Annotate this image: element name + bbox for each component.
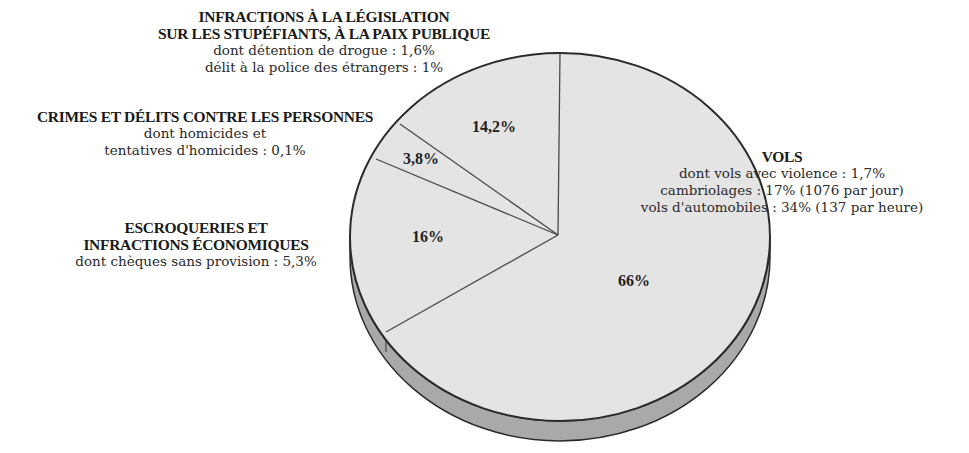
label-escroqueries: ESCROQUERIES ET INFRACTIONS ÉCONOMIQUES … — [46, 219, 346, 270]
label-vols-detail-2: cambriolages : 17% (1076 par jour) — [604, 182, 960, 199]
label-escroqueries-detail: dont chèques sans provision : 5,3% — [46, 253, 346, 270]
label-stupefiants-detail-2: délit à la police des étrangers : 1% — [108, 59, 540, 76]
label-crimes-title: CRIMES ET DÉLITS CONTRE LES PERSONNES — [12, 108, 398, 125]
label-vols: VOLS dont vols avec violence : 1,7% camb… — [604, 148, 960, 216]
label-escroqueries-title-2: INFRACTIONS ÉCONOMIQUES — [46, 236, 346, 253]
label-stupefiants-title-2: SUR LES STUPÉFIANTS, À LA PAIX PUBLIQUE — [108, 25, 540, 42]
label-crimes: CRIMES ET DÉLITS CONTRE LES PERSONNES do… — [12, 108, 398, 159]
label-vols-detail-1: dont vols avec violence : 1,7% — [604, 165, 960, 182]
label-crimes-detail-2: tentatives d'homicides : 0,1% — [12, 142, 398, 159]
label-escroqueries-title-1: ESCROQUERIES ET — [46, 219, 346, 236]
label-stupefiants: INFRACTIONS À LA LÉGISLATION SUR LES STU… — [108, 8, 540, 76]
slice-value-crimes: 3,8% — [403, 150, 439, 168]
slice-value-vols: 66% — [618, 272, 650, 290]
label-vols-detail-3: vols d'automobiles : 34% (137 par heure) — [604, 199, 960, 216]
pie-chart: 14,2% 3,8% 16% 66% INFRACTIONS À LA LÉGI… — [0, 0, 969, 453]
label-crimes-detail-1: dont homicides et — [12, 125, 398, 142]
slice-value-stupefiants: 14,2% — [472, 118, 516, 136]
label-stupefiants-title-1: INFRACTIONS À LA LÉGISLATION — [108, 8, 540, 25]
label-vols-title: VOLS — [604, 148, 960, 165]
slice-value-escroqueries: 16% — [412, 228, 444, 246]
label-stupefiants-detail-1: dont détention de drogue : 1,6% — [108, 42, 540, 59]
